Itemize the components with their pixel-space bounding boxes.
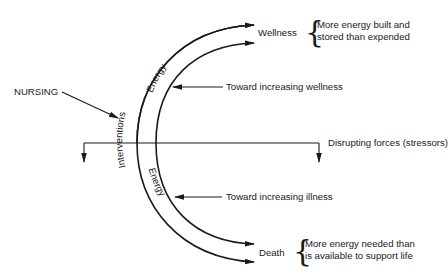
wellness-description-line2: stored than expended [317, 31, 410, 43]
death-description-line2: is available to support life [305, 250, 415, 262]
wellness-description-line1: More energy built and [317, 19, 410, 31]
wellness-label: Wellness [258, 27, 297, 38]
energy-lower-label: Energy [147, 167, 169, 199]
disrupting-forces-label: Disrupting forces (stressors) [328, 137, 448, 148]
death-description: More energy needed than is available to … [305, 238, 415, 261]
death-description-line1: More energy needed than [305, 238, 415, 250]
toward-illness-label: Toward increasing illness [226, 191, 333, 202]
death-label: Death [259, 247, 285, 258]
nursing-arrow [62, 92, 118, 118]
nursing-label: NURSING [14, 86, 58, 97]
interventions-label: Interventions [113, 111, 127, 170]
energy-upper-label: Energy [144, 61, 169, 94]
toward-wellness-label: Toward increasing wellness [226, 81, 343, 92]
wellness-description: More energy built and stored than expend… [317, 19, 410, 42]
